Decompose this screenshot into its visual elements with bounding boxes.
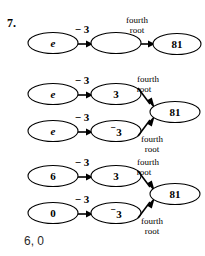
node-result-label-g1r1: 81 — [172, 38, 183, 50]
edge-label-minus3-g3r2: − 3 — [75, 193, 90, 205]
node-start-g3r2: 0 — [28, 203, 78, 224]
diagram-group-3: 6 − 3 3 fourth root 0 − 3 — [28, 156, 200, 236]
edge-label-minus3-g3r1: − 3 — [75, 156, 90, 168]
edge-label-root-g1r1: root — [130, 25, 145, 35]
node-middle-g3r2: ⁻3 — [91, 203, 141, 224]
node-result-g2: 81 — [150, 102, 200, 123]
edge-label-fourth-g2r1: fourth — [137, 74, 159, 84]
edge-label-root-g3r1: root — [137, 167, 152, 177]
edge-label-root-g2r1: root — [137, 84, 152, 94]
node-middle-label-g3r1: 3 — [113, 170, 119, 182]
node-start-g2r1: e — [28, 84, 78, 105]
node-start-g3r1: 6 — [28, 166, 78, 187]
arrow-fourthroot-g2r1: fourth root — [137, 74, 160, 109]
node-start-label-g1r1: e — [51, 37, 56, 49]
edge-label-minus3-g2r1: − 3 — [75, 74, 90, 86]
edge-label-minus3-g1r1: − 3 — [75, 23, 90, 35]
node-start-g1r1: e — [28, 33, 78, 54]
node-middle-g2r2: ⁻3 — [91, 121, 141, 142]
edge-label-fourth-g3r2: fourth — [141, 216, 163, 226]
node-start-label-g2r1: e — [51, 88, 56, 100]
edge-label-fourth-g3r1: fourth — [137, 157, 159, 167]
node-middle-label-g2r1: 3 — [113, 88, 119, 100]
diagram-group-2: e − 3 3 fourth root e − 3 — [28, 74, 200, 154]
node-start-g2r2: e — [28, 121, 78, 142]
node-middle-g3r1: 3 — [91, 166, 141, 187]
node-middle-g2r1: 3 — [91, 84, 141, 105]
neg-digit-g2r2: 3 — [116, 126, 122, 138]
node-start-label-g3r2: 0 — [50, 207, 56, 219]
neg-digit-g3r2: 3 — [116, 208, 122, 220]
edge-label-minus3-g2r2: − 3 — [75, 111, 90, 123]
node-start-label-g3r1: 6 — [50, 170, 56, 182]
edge-label-root-g2r2: root — [145, 144, 160, 154]
answer-text: 6, 0 — [24, 234, 44, 248]
node-middle-g1r1 — [91, 33, 141, 54]
node-result-label-g2: 81 — [170, 106, 181, 118]
node-start-label-g2r2: e — [51, 125, 56, 137]
node-result-g1r1: 81 — [153, 34, 201, 55]
node-result-g3: 81 — [150, 184, 200, 205]
edge-label-fourth-g2r2: fourth — [141, 134, 163, 144]
node-result-label-g3: 81 — [170, 188, 181, 200]
edge-label-root-g3r2: root — [145, 226, 160, 236]
edge-label-fourth-g1r1: fourth — [126, 15, 148, 25]
diagram-group-1: e − 3 fourth root 81 — [28, 15, 201, 55]
mapping-diagram: e − 3 fourth root 81 e — [0, 0, 205, 256]
